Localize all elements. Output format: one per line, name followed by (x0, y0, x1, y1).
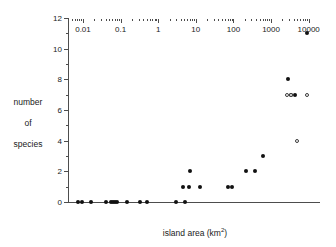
x-minor-tick (303, 19, 304, 21)
x-minor-tick (181, 19, 182, 21)
data-point-filled (76, 200, 80, 204)
x-minor-tick (139, 19, 140, 21)
x-minor-tick (269, 19, 270, 21)
x-minor-tick (228, 19, 229, 21)
x-minor-tick (225, 19, 226, 21)
y-tick-mark (64, 18, 68, 19)
x-axis-label: island area (km2) (60, 228, 330, 238)
x-minor-tick (72, 19, 73, 21)
x-minor-tick (155, 19, 156, 21)
x-minor-tick (152, 19, 153, 21)
data-point-open (295, 139, 299, 143)
x-minor-tick (192, 19, 193, 21)
data-point-filled (183, 200, 187, 204)
x-minor-tick (263, 19, 264, 21)
y-minor-tick (66, 187, 68, 188)
x-minor-tick (267, 19, 268, 21)
y-axis-label-line-1: number (2, 97, 54, 108)
x-minor-tick (119, 19, 120, 21)
x-minor-tick (81, 19, 82, 21)
data-point-filled (286, 77, 290, 81)
x-minor-tick (214, 19, 215, 21)
x-tick-mark (271, 19, 272, 23)
data-point-filled (80, 200, 84, 204)
x-minor-tick (109, 19, 110, 21)
data-point-filled (244, 169, 248, 173)
y-minor-tick (66, 95, 68, 96)
y-tick-mark (64, 110, 68, 111)
x-minor-tick (305, 19, 306, 21)
x-axis-label-tail: ) (224, 228, 227, 238)
x-minor-tick (147, 19, 148, 21)
x-tick-mark (309, 19, 310, 23)
data-point-filled (115, 200, 119, 204)
x-minor-tick (297, 19, 298, 21)
x-minor-tick (265, 19, 266, 21)
y-minor-tick (66, 64, 68, 65)
x-tick-mark (158, 19, 159, 23)
x-minor-tick (176, 19, 177, 21)
y-tick-label: 0 (58, 198, 62, 207)
data-point-filled (174, 200, 178, 204)
data-point-filled (89, 200, 93, 204)
y-axis-line (68, 18, 69, 202)
x-minor-tick (143, 19, 144, 21)
y-tick-label: 10 (53, 44, 62, 53)
x-minor-tick (170, 19, 171, 21)
x-tick-mark (196, 19, 197, 23)
x-minor-tick (112, 19, 113, 21)
x-minor-tick (77, 19, 78, 21)
x-tick-mark (83, 19, 84, 23)
x-tick-label: 1 (156, 25, 160, 34)
data-point-filled (181, 185, 185, 189)
data-point-filled (188, 169, 192, 173)
x-minor-tick (245, 19, 246, 21)
x-minor-tick (294, 19, 295, 21)
y-tick-mark (64, 49, 68, 50)
x-tick-label: 0.1 (115, 25, 126, 34)
x-minor-tick (230, 19, 231, 21)
y-tick-label: 2 (58, 167, 62, 176)
y-minor-tick (66, 156, 68, 157)
y-tick-label: 4 (58, 136, 62, 145)
data-point-filled (145, 200, 149, 204)
data-point-open (289, 93, 293, 97)
x-minor-tick (207, 19, 208, 21)
y-minor-tick (66, 33, 68, 34)
x-minor-tick (282, 19, 283, 21)
x-minor-tick (117, 19, 118, 21)
data-point-filled (138, 200, 142, 204)
y-axis-label-line-3: species (2, 139, 54, 150)
y-axis-label: number of species (2, 86, 54, 160)
data-point-filled (104, 200, 108, 204)
data-point-filled (198, 185, 202, 189)
x-minor-tick (115, 19, 116, 21)
y-tick-label: 6 (58, 106, 62, 115)
data-point-filled (261, 154, 265, 158)
data-point-filled (230, 185, 234, 189)
data-point-filled (253, 169, 257, 173)
x-minor-tick (222, 19, 223, 21)
x-tick-label: 0.01 (75, 25, 91, 34)
x-minor-tick (94, 19, 95, 21)
y-minor-tick (66, 125, 68, 126)
data-point-open (305, 93, 309, 97)
x-tick-label: 10 (191, 25, 200, 34)
x-minor-tick (300, 19, 301, 21)
x-tick-label: 10000 (298, 25, 320, 34)
x-minor-tick (132, 19, 133, 21)
x-tick-mark (233, 19, 234, 23)
y-tick-mark (64, 79, 68, 80)
data-point-filled (305, 31, 309, 35)
x-tick-mark (121, 19, 122, 23)
y-tick-label: 8 (58, 75, 62, 84)
x-minor-tick (150, 19, 151, 21)
x-minor-tick (218, 19, 219, 21)
x-minor-tick (75, 19, 76, 21)
y-tick-mark (64, 171, 68, 172)
x-minor-tick (101, 19, 102, 21)
x-minor-tick (289, 19, 290, 21)
y-tick-label: 12 (53, 14, 62, 23)
x-axis-label-text: island area (km (163, 228, 221, 238)
plot-area: 024681012 0.010.1110100100010000 (68, 18, 320, 202)
